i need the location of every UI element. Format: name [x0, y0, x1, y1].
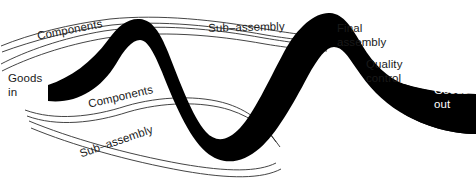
label-final-assembly: Final assembly	[337, 22, 386, 49]
label-subassembly-top: Sub–assembly	[208, 20, 285, 36]
diagram-canvas: Goods in Components Sub–assembly Final a…	[0, 0, 476, 181]
label-goods-in: Goods in	[8, 72, 42, 99]
label-quality-control: Quality control	[366, 58, 403, 85]
label-goods-out: Goods out	[434, 84, 468, 111]
